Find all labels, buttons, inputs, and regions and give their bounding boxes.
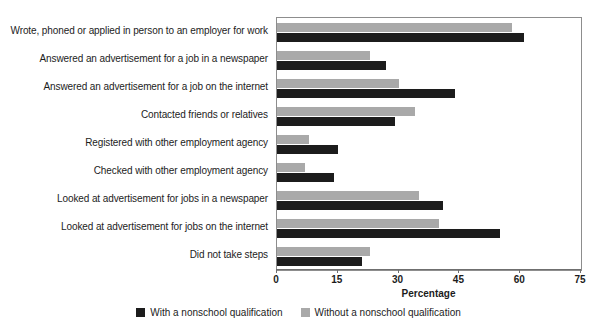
plot-area (276, 17, 582, 271)
bar (277, 191, 419, 200)
bar (277, 247, 370, 256)
x-axis-tick-label: 0 (273, 274, 279, 285)
bar (277, 229, 500, 238)
bar (277, 61, 386, 70)
x-axis-tick (458, 269, 459, 273)
legend-label: Without a nonschool qualification (315, 307, 461, 318)
bar (277, 257, 362, 266)
bar (277, 89, 455, 98)
bar (277, 79, 399, 88)
bar (277, 145, 338, 154)
x-axis-line (276, 269, 581, 270)
category-label: Looked at advertisement for jobs in a ne… (57, 193, 268, 204)
legend-label: With a nonschool qualification (150, 307, 282, 318)
category-label: Contacted friends or relatives (141, 109, 268, 120)
x-axis-tick (337, 269, 338, 273)
x-axis-tick-label: 30 (392, 274, 403, 285)
category-label: Wrote, phoned or applied in person to an… (11, 25, 269, 36)
x-axis-tick (276, 269, 277, 273)
x-axis-tick-label: 45 (453, 274, 464, 285)
category-label: Did not take steps (190, 249, 268, 260)
x-axis-tick (519, 269, 520, 273)
bar (277, 219, 439, 228)
x-axis-tick (398, 269, 399, 273)
x-axis-title: Percentage (276, 288, 581, 299)
legend-item: Without a nonschool qualification (301, 307, 461, 318)
bar (277, 163, 305, 172)
bar (277, 117, 395, 126)
bar (277, 107, 415, 116)
chart-legend: With a nonschool qualificationWithout a … (0, 307, 597, 318)
bar (277, 33, 524, 42)
horizontal-bar-chart: Wrote, phoned or applied in person to an… (0, 0, 597, 332)
x-axis-tick-label: 75 (574, 274, 585, 285)
bar (277, 51, 370, 60)
x-axis-tick (580, 269, 581, 273)
category-label: Registered with other employment agency (85, 137, 268, 148)
category-labels: Wrote, phoned or applied in person to an… (0, 17, 272, 269)
bars-container (277, 18, 581, 270)
category-label: Answered an advertisement for a job on t… (44, 81, 268, 92)
legend-swatch-dark (136, 308, 145, 317)
x-axis-tick-label: 15 (331, 274, 342, 285)
x-axis-tick-label: 60 (514, 274, 525, 285)
category-label: Looked at advertisement for jobs on the … (61, 221, 268, 232)
bar (277, 173, 334, 182)
category-label: Checked with other employment agency (94, 165, 268, 176)
legend-swatch-light (301, 308, 310, 317)
bar (277, 135, 309, 144)
legend-item: With a nonschool qualification (136, 307, 282, 318)
bar (277, 201, 443, 210)
bar (277, 23, 512, 32)
category-label: Answered an advertisement for a job in a… (40, 53, 268, 64)
